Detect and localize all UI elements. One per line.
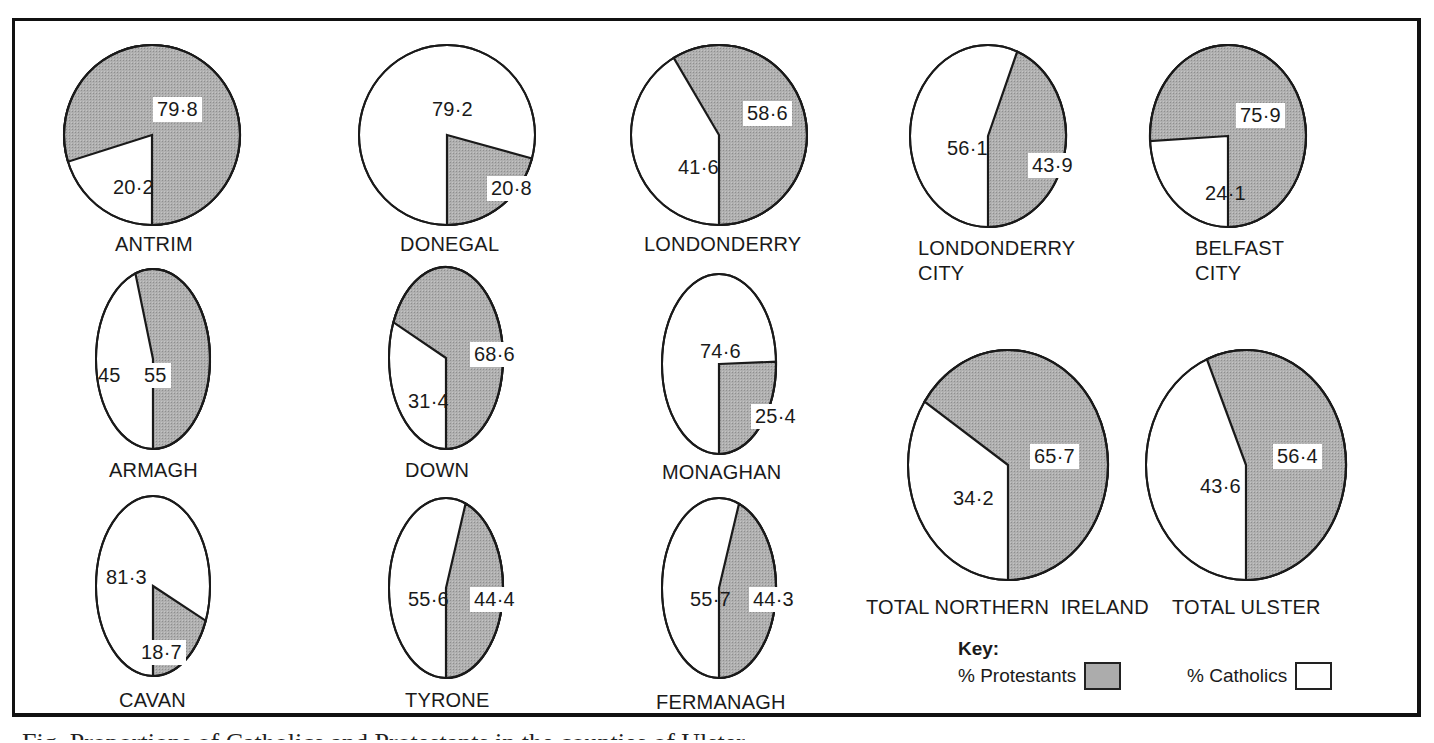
catholic-value: 56·1 <box>947 136 988 161</box>
pie-name-label: LONDONDERRY CITY <box>918 236 1075 286</box>
pie-name-label: FERMANAGH <box>656 690 786 715</box>
catholic-value: 55·6 <box>408 587 449 612</box>
catholic-value: 34·2 <box>953 486 994 511</box>
protestant-swatch <box>1084 662 1121 690</box>
pie-name-label: DOWN <box>405 458 469 483</box>
protestant-value: 79·8 <box>153 97 202 122</box>
legend-catholics: % Catholics <box>1187 662 1332 690</box>
pie-name-label: TOTAL ULSTER <box>1172 595 1321 620</box>
legend-protestants-label: % Protestants <box>958 665 1076 687</box>
protestant-value: 58·6 <box>743 101 792 126</box>
pie-name-label: TOTAL NORTHERN IRELAND <box>866 595 1149 620</box>
protestant-value: 44·3 <box>749 587 798 612</box>
pie-armagh <box>96 269 210 449</box>
protestant-value: 55 <box>140 363 171 388</box>
protestant-value: 44·4 <box>470 587 519 612</box>
catholic-value: 81·3 <box>106 565 147 590</box>
protestant-value: 18·7 <box>137 640 186 665</box>
protestant-value: 43·9 <box>1028 153 1077 178</box>
protestant-value: 65·7 <box>1030 444 1079 469</box>
protestant-value: 25·4 <box>751 404 800 429</box>
catholic-value: 31·4 <box>408 389 449 414</box>
legend-catholics-label: % Catholics <box>1187 665 1287 687</box>
pie-londonderry-city <box>910 45 1066 227</box>
pie-londonderry <box>631 45 807 225</box>
protestant-value: 20·8 <box>487 176 536 201</box>
pie-name-label: DONEGAL <box>400 232 499 257</box>
pie-name-label: ARMAGH <box>109 458 198 483</box>
catholic-value: 43·6 <box>1200 474 1241 499</box>
catholic-value: 45 <box>98 363 121 388</box>
legend-protestants: % Protestants <box>958 662 1121 690</box>
pie-name-label: TYRONE <box>405 688 490 713</box>
protestant-value: 68·6 <box>470 342 519 367</box>
catholic-value: 20·2 <box>113 175 154 200</box>
catholic-value: 79·2 <box>432 97 473 122</box>
pie-name-label: ANTRIM <box>115 232 193 257</box>
catholic-value: 74·6 <box>700 339 741 364</box>
pie-name-label: CAVAN <box>119 688 186 713</box>
pie-name-label: MONAGHAN <box>662 460 781 485</box>
catholic-swatch <box>1295 662 1332 690</box>
catholic-value: 24·1 <box>1205 181 1246 206</box>
catholic-value: 41·6 <box>678 155 719 180</box>
pie-charts <box>0 0 1434 743</box>
protestant-value: 56·4 <box>1273 444 1322 469</box>
pie-name-label: LONDONDERRY <box>644 232 801 257</box>
protestant-value: 75·9 <box>1236 103 1285 128</box>
catholic-value: 55·7 <box>690 587 731 612</box>
key-title: Key: <box>958 638 999 660</box>
pie-name-label: BELFAST CITY <box>1195 236 1284 286</box>
